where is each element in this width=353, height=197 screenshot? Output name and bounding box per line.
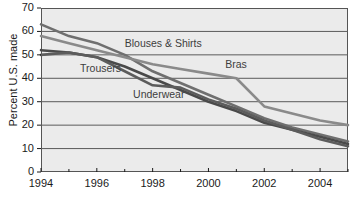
- y-tick-label: 70: [8, 2, 34, 13]
- x-tick-label: 1996: [77, 178, 117, 189]
- x-tick-label: 1998: [133, 178, 173, 189]
- y-tick-label: 40: [8, 72, 34, 83]
- series-annotation: Underwear: [133, 89, 184, 100]
- x-tick-label: 2002: [244, 178, 284, 189]
- series-annotation: Bras: [225, 59, 247, 70]
- y-tick-label: 60: [8, 25, 34, 36]
- series-annotation: Trousers: [80, 63, 121, 74]
- y-tick-label: 0: [8, 166, 34, 177]
- y-tick-label: 20: [8, 119, 34, 130]
- x-tick-label: 2000: [188, 178, 228, 189]
- x-tick-label: 1994: [21, 178, 61, 189]
- line-chart: Percent U.S. made 010203040506070 199419…: [0, 0, 353, 197]
- series-annotation: Blouses & Shirts: [125, 38, 202, 49]
- y-tick-label: 50: [8, 49, 34, 60]
- x-tick-label: 2004: [300, 178, 340, 189]
- y-tick-label: 30: [8, 96, 34, 107]
- y-tick-label: 10: [8, 143, 34, 154]
